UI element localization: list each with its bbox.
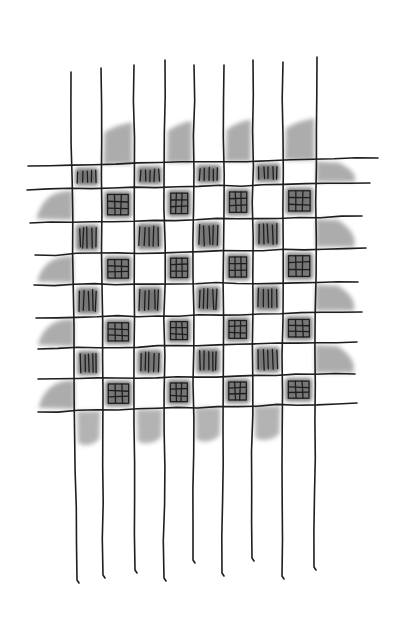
horizontal-thread-5 [34, 282, 358, 286]
top-shade-col-3 [167, 121, 192, 163]
vertical-thread-3 [133, 65, 137, 573]
left-shade-row-3 [37, 256, 73, 282]
dark-cell [286, 188, 313, 214]
vertical-thread-4 [163, 60, 166, 581]
top-shade-col-7 [285, 118, 315, 160]
vertical-thread-6 [222, 65, 224, 576]
bottom-shade-col-2 [137, 409, 163, 443]
dark-cell [286, 253, 313, 280]
left-shade-row-1 [36, 191, 72, 220]
horizontal-thread-3 [30, 216, 362, 223]
top-shade-col-1 [103, 122, 132, 164]
right-shade-row-2 [316, 219, 355, 247]
dark-cell [105, 257, 132, 281]
bottom-shade-col-6 [254, 406, 280, 440]
right-shade-row-6 [315, 345, 354, 373]
vertical-thread-8 [282, 62, 284, 579]
grid-lines [27, 57, 378, 583]
bottom-shade-col-4 [195, 408, 220, 442]
vertical-thread-7 [252, 60, 255, 561]
left-shade-row-5 [38, 319, 74, 346]
vertical-thread-5 [193, 65, 195, 563]
left-shade-row-7 [39, 380, 75, 409]
dark-cell [105, 381, 131, 406]
horizontal-thread-7 [38, 342, 357, 349]
woven-grid-sketch [0, 0, 410, 626]
bottom-shade-col-0 [77, 411, 100, 445]
top-shade-col-5 [226, 120, 251, 162]
right-shade-row-4 [316, 284, 355, 310]
right-shade-row-0 [316, 161, 355, 182]
dark-cell [105, 191, 132, 217]
dark-cell [256, 286, 280, 310]
